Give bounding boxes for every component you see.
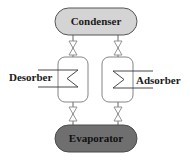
desorber-label: Desorber xyxy=(9,72,52,83)
valve-icon xyxy=(69,107,77,121)
desorber-vessel xyxy=(58,57,88,102)
adsorber-vessel xyxy=(102,57,133,102)
valve-icon xyxy=(114,41,122,55)
valve-icon xyxy=(114,107,122,121)
valve-icon xyxy=(69,41,77,55)
evaporator-label: Evaporator xyxy=(55,133,137,144)
adsorber-label: Adsorber xyxy=(136,75,181,86)
condenser-label: Condenser xyxy=(55,16,137,27)
